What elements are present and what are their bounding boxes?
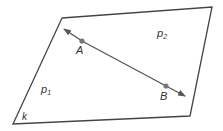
line-ab-end — [166, 86, 185, 96]
region-p1-letter: p — [40, 83, 47, 95]
point-b-label: B — [160, 90, 167, 102]
region-p2-letter: p — [156, 27, 163, 39]
point-b — [163, 83, 168, 88]
plane-label: k — [22, 111, 28, 122]
region-p1-label: p1 — [40, 83, 51, 96]
plane-diagram: A B p2 p1 k — [0, 0, 223, 131]
point-a — [79, 38, 84, 43]
point-a-label: A — [75, 44, 83, 56]
plane-outline — [13, 7, 212, 124]
line-ab — [64, 29, 82, 41]
line-ab-main — [82, 41, 166, 86]
region-p2-subscript: 2 — [162, 33, 167, 40]
region-p2-label: p2 — [156, 27, 167, 40]
region-p1-subscript: 1 — [47, 89, 51, 96]
